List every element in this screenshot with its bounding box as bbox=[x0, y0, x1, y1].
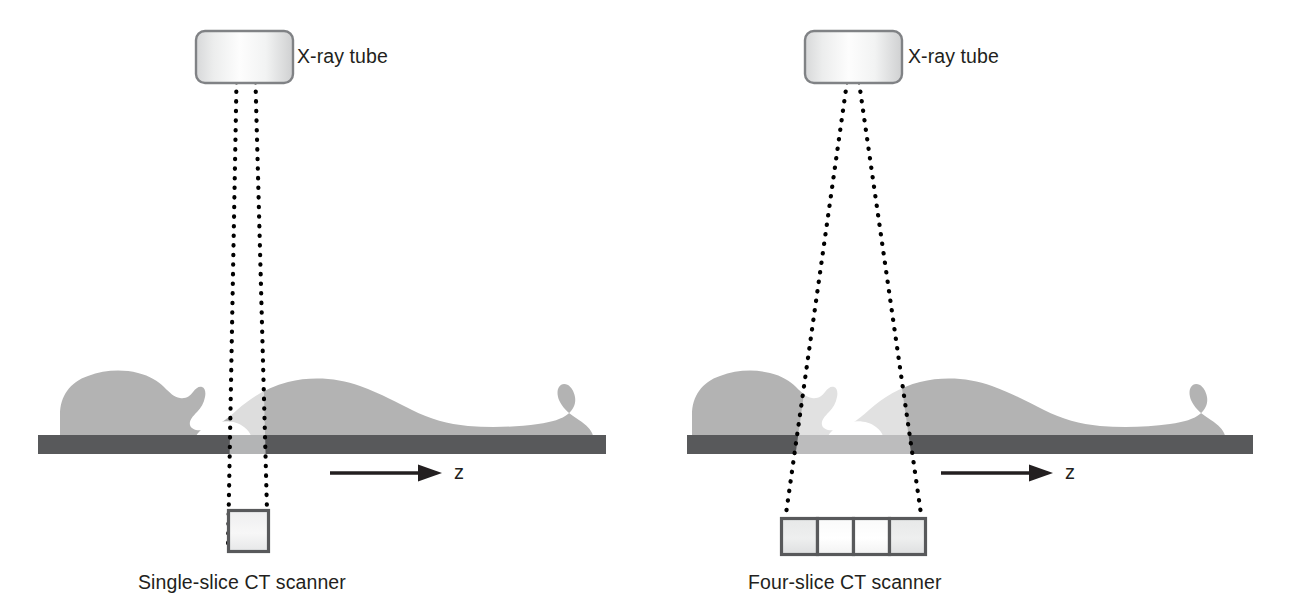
detector-element bbox=[818, 519, 854, 555]
panel-single-slice: X-ray tube z Single-slice CT scanner bbox=[0, 0, 648, 612]
patient-silhouette bbox=[60, 371, 593, 436]
x-ray-tube bbox=[805, 31, 902, 83]
ct-scanner-diagram: X-ray tube z Single-slice CT scanner bbox=[0, 0, 1295, 612]
four-slice-graphic bbox=[647, 0, 1295, 612]
patient-silhouette bbox=[692, 371, 1225, 436]
x-ray-tube bbox=[196, 31, 293, 83]
detector-array bbox=[782, 519, 926, 555]
z-axis-label: z bbox=[1065, 462, 1075, 482]
panel-caption-four-slice: Four-slice CT scanner bbox=[748, 573, 942, 593]
x-ray-tube-label: X-ray tube bbox=[908, 47, 999, 67]
detector-element bbox=[782, 519, 818, 555]
detector-element bbox=[229, 511, 269, 552]
z-axis-label: z bbox=[454, 462, 464, 482]
single-slice-graphic bbox=[0, 0, 648, 612]
x-ray-beam-field bbox=[210, 82, 290, 542]
z-axis-arrow bbox=[941, 465, 1053, 482]
detector-element bbox=[854, 519, 890, 555]
patient-table bbox=[38, 435, 606, 454]
panel-four-slice: X-ray tube z Four-slice CT scanner bbox=[647, 0, 1295, 612]
detector-element bbox=[890, 519, 926, 555]
x-ray-beam-field bbox=[767, 82, 947, 542]
patient-table bbox=[687, 435, 1253, 454]
x-ray-tube-label: X-ray tube bbox=[297, 47, 388, 67]
z-axis-arrow bbox=[330, 465, 442, 482]
panel-caption-single-slice: Single-slice CT scanner bbox=[138, 573, 346, 593]
